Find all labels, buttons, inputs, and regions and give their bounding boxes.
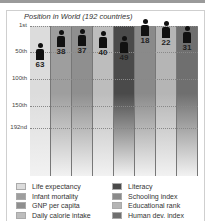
gridline (30, 26, 198, 27)
gridline (30, 128, 198, 129)
legend-label: Educational rank (128, 202, 180, 209)
person-icon (98, 31, 108, 48)
y-tick-label: 192nd (5, 124, 27, 130)
y-tick-label: 100th (5, 75, 27, 81)
person-icon (140, 19, 150, 36)
value-label: 63 (30, 60, 50, 69)
legend-swatch (112, 193, 122, 200)
legend-item: Schooling index (112, 192, 184, 202)
person-icon (35, 43, 45, 60)
person-icon (161, 21, 171, 38)
legend-right: LiteracySchooling indexEducational rankH… (112, 182, 184, 220)
legend-label: Schooling index (128, 193, 177, 200)
legend-label: Daily calorie intake (32, 212, 91, 219)
person-icon (119, 36, 129, 53)
bar-educational-rank (156, 26, 177, 176)
person-icon (56, 30, 66, 47)
value-label: 18 (135, 36, 155, 45)
top-border (0, 0, 205, 3)
legend-left: Life expectancyInfant mortalityGNP per c… (16, 182, 91, 220)
legend-swatch (112, 212, 122, 219)
legend-label: Life expectancy (32, 183, 81, 190)
legend-label: Human dev. index (128, 212, 184, 219)
value-label: 22 (156, 38, 176, 47)
chart-title: Position in World (192 countries) (24, 12, 132, 21)
gridline (30, 106, 198, 107)
y-tick-label: 150th (5, 102, 27, 108)
plot-area: 6338374049182231 (30, 26, 198, 176)
legend-label: Literacy (128, 183, 153, 190)
legend-swatch (16, 212, 26, 219)
value-label: 31 (177, 43, 197, 52)
legend-item: Infant mortality (16, 192, 91, 202)
person-icon (182, 26, 192, 43)
legend-item: Human dev. index (112, 211, 184, 221)
legend-label: Infant mortality (32, 193, 78, 200)
y-tick-label: 50th (5, 48, 27, 54)
legend-item: GNP per capita (16, 201, 91, 211)
value-label: 40 (93, 48, 113, 57)
gridline (30, 79, 198, 80)
legend-item: Literacy (112, 182, 184, 192)
legend-swatch (112, 202, 122, 209)
legend-item: Educational rank (112, 201, 184, 211)
legend-item: Daily calorie intake (16, 211, 91, 221)
legend-swatch (16, 202, 26, 209)
value-label: 49 (114, 53, 134, 62)
bar-schooling-index (135, 26, 156, 176)
legend-item: Life expectancy (16, 182, 91, 192)
person-icon (77, 29, 87, 46)
legend-label: GNP per capita (32, 202, 80, 209)
legend-swatch (16, 183, 26, 190)
legend-swatch (112, 183, 122, 190)
legend-swatch (16, 193, 26, 200)
value-label: 37 (72, 46, 92, 55)
value-label: 38 (51, 47, 71, 56)
y-tick-label: 1st (5, 22, 27, 28)
